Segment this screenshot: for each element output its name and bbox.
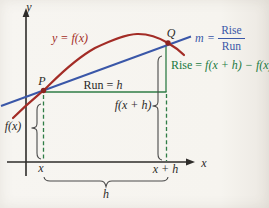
h-measure-label: h: [103, 188, 109, 200]
x-axis-arrow-icon: [186, 159, 195, 166]
point-q-label: Q: [167, 27, 176, 39]
y-axis-label: y: [26, 1, 31, 13]
fx-measure-label: f(x): [5, 120, 22, 132]
h-brace: [44, 177, 168, 187]
x-axis-label: x: [201, 157, 206, 169]
curve-label: y = f(x): [52, 32, 88, 44]
x-plus-h-tick-label: x + h: [153, 163, 178, 175]
rise-equation-expression: f(x + h) − f(x): [205, 58, 269, 72]
run-label-prefix: Run =: [84, 78, 117, 92]
x-tick-label: x: [38, 162, 43, 174]
rise-equation: Rise = f(x + h) − f(x): [171, 58, 269, 73]
run-label: Run = h: [84, 79, 123, 91]
rise-equation-prefix: Rise =: [171, 58, 205, 72]
fxh-measure-label: f(x + h): [115, 99, 152, 111]
slope-var: m: [195, 32, 204, 44]
fx-brace: [32, 104, 42, 159]
fraction-denominator: Run: [222, 39, 241, 53]
fraction-numerator: Rise: [218, 24, 244, 39]
slope-formula: m = Rise Run: [195, 24, 245, 52]
slope-equals: =: [208, 32, 215, 44]
fxh-brace: [153, 56, 163, 160]
secant-slope-figure: y x y = f(x) P Q m = Rise Run Rise = f(x…: [0, 0, 269, 208]
rise-over-run-fraction: Rise Run: [218, 24, 244, 52]
point-q-marker: [165, 40, 170, 45]
run-label-var: h: [116, 78, 122, 92]
point-p-marker: [41, 88, 46, 93]
point-p-label: P: [38, 75, 45, 87]
